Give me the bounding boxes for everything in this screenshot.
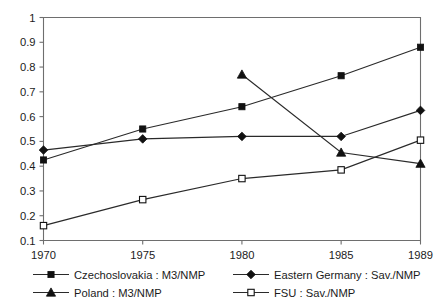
y-tick-label: 0.3 (20, 185, 36, 197)
data-point-marker (239, 175, 245, 181)
data-point-marker (417, 44, 423, 50)
data-point-marker (40, 157, 46, 163)
chart-container: 0.10.20.30.40.50.60.70.80.91 19701975198… (0, 0, 439, 307)
data-point-marker (239, 104, 245, 110)
y-tick-label: 0.5 (20, 135, 36, 147)
y-tick-label: 0.4 (20, 160, 36, 172)
x-tick-label: 1975 (130, 249, 155, 261)
y-tick-label: 1 (29, 12, 35, 24)
legend-label: Czechoslovakia : M3/NMP (74, 269, 205, 281)
x-tick-label: 1985 (329, 249, 354, 261)
y-tick-label: 0.1 (20, 235, 36, 247)
data-point-marker (338, 167, 344, 173)
y-tick-label: 0.8 (20, 61, 36, 73)
line-chart: 0.10.20.30.40.50.60.70.80.91 19701975198… (0, 0, 439, 307)
data-point-marker (140, 126, 146, 132)
y-tick-label: 0.2 (20, 210, 36, 222)
y-tick-label: 0.9 (20, 36, 36, 48)
x-tick-label: 1970 (31, 249, 56, 261)
x-tick-label: 1989 (408, 249, 433, 261)
x-tick-label: 1980 (229, 249, 254, 261)
data-point-marker (140, 196, 146, 202)
legend-label: FSU : Sav./NMP (274, 287, 355, 299)
legend-marker-open-square-icon (248, 289, 254, 295)
data-point-marker (40, 222, 46, 228)
y-tick-label: 0.6 (20, 111, 36, 123)
legend-marker-filled-square-icon (48, 271, 54, 277)
legend-label: Eastern Germany : Sav./NMP (274, 269, 421, 281)
legend-label: Poland : M3/NMP (74, 287, 162, 299)
data-point-marker (417, 137, 423, 143)
y-tick-label: 0.7 (20, 86, 36, 98)
data-point-marker (338, 73, 344, 79)
